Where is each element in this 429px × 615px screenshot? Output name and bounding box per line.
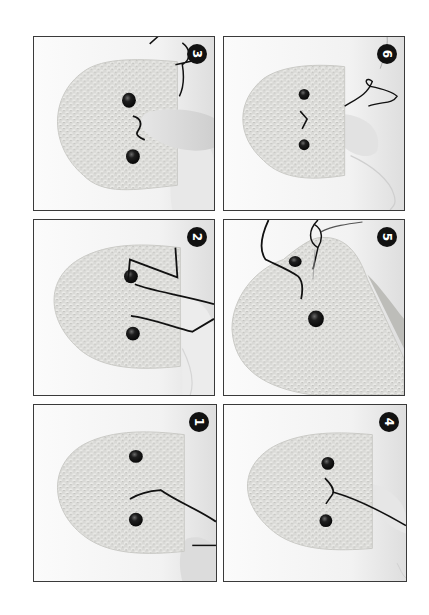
step-panel-2: 2 bbox=[33, 219, 215, 396]
step-number-badge: 5 bbox=[377, 227, 397, 247]
step-panel-3: 3 bbox=[33, 36, 215, 211]
step-number-badge: 2 bbox=[187, 227, 207, 247]
step-panel-4: 4 bbox=[223, 404, 407, 582]
crochet-head-photo bbox=[224, 37, 404, 210]
crochet-head-photo bbox=[34, 220, 214, 395]
step-number-badge: 3 bbox=[187, 44, 207, 64]
step-panel-6: 6 bbox=[223, 36, 405, 211]
crochet-head-photo bbox=[34, 405, 216, 581]
crochet-head-photo bbox=[224, 220, 404, 395]
crochet-head-photo bbox=[224, 405, 406, 581]
step-panel-5: 5 bbox=[223, 219, 405, 396]
step-number-badge: 4 bbox=[379, 412, 399, 432]
crochet-head-photo bbox=[34, 37, 214, 210]
step-number-badge: 6 bbox=[377, 44, 397, 64]
step-panel-1: 1 bbox=[33, 404, 217, 582]
step-number-badge: 1 bbox=[189, 412, 209, 432]
